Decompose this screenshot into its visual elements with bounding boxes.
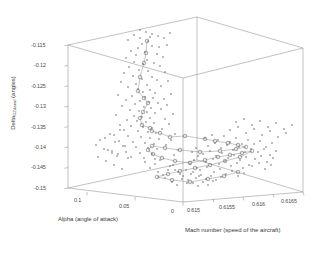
scatter-point bbox=[237, 126, 238, 127]
scatter-point bbox=[144, 142, 145, 143]
scatter-point bbox=[154, 163, 155, 164]
scatter-point bbox=[121, 105, 122, 106]
scatter-point bbox=[212, 180, 213, 181]
scatter-point bbox=[138, 69, 139, 70]
scatter-point bbox=[152, 97, 153, 98]
scatter-point bbox=[166, 104, 167, 105]
y-axis-title-subscript: CZdanal bbox=[12, 100, 17, 116]
scatter-point bbox=[123, 72, 124, 73]
scatter-point bbox=[124, 145, 125, 146]
scatter-point bbox=[192, 171, 193, 172]
scatter-point bbox=[156, 79, 157, 80]
scatter-point bbox=[153, 62, 154, 63]
scatter-point bbox=[109, 133, 110, 134]
y-tick-label: -0.115 bbox=[31, 42, 45, 48]
scatter-point bbox=[264, 168, 265, 169]
scatter-point bbox=[136, 120, 137, 121]
scatter-point bbox=[141, 43, 142, 44]
scatter-point bbox=[143, 106, 144, 107]
scatter-point bbox=[235, 137, 236, 138]
scatter-point bbox=[114, 141, 115, 142]
scatter-point bbox=[117, 94, 118, 95]
scatter-point bbox=[245, 156, 246, 157]
x-tick-label: 0 bbox=[171, 208, 174, 214]
scatter-point bbox=[95, 144, 96, 145]
scatter-point bbox=[157, 102, 158, 103]
scatter-point bbox=[121, 168, 122, 169]
scatter-point bbox=[291, 124, 292, 125]
scatter-point bbox=[164, 118, 165, 119]
scatter-point bbox=[103, 148, 104, 149]
scatter-point bbox=[138, 110, 139, 111]
scatter-point bbox=[125, 151, 126, 152]
y-tick-label: -0.125 bbox=[31, 83, 46, 89]
plot-canvas bbox=[0, 0, 321, 255]
scatter-point bbox=[135, 54, 136, 55]
scatter-point bbox=[198, 175, 199, 176]
scatter-point bbox=[243, 172, 244, 173]
scatter-point bbox=[271, 142, 272, 143]
scatter-point bbox=[192, 182, 193, 183]
scatter-point bbox=[223, 135, 224, 136]
scatter-point bbox=[122, 145, 123, 146]
scatter-point bbox=[155, 132, 156, 133]
scatter-point bbox=[236, 162, 237, 163]
scatter-point bbox=[251, 165, 252, 166]
scatter-point bbox=[153, 143, 154, 144]
scatter-point bbox=[187, 179, 188, 180]
scatter-point bbox=[129, 109, 130, 110]
scatter-point bbox=[146, 84, 147, 85]
scatter-point bbox=[119, 124, 120, 125]
scatter-point bbox=[275, 150, 276, 151]
scatter-point bbox=[163, 98, 164, 99]
scatter-point bbox=[176, 184, 177, 185]
scatter-point bbox=[133, 115, 134, 116]
scatter-point bbox=[119, 129, 120, 130]
scatter-point bbox=[107, 149, 108, 150]
scatter-point bbox=[229, 129, 230, 130]
scatter-point bbox=[133, 34, 134, 35]
z-tick-label: 0.6155 bbox=[219, 204, 235, 210]
scatter-point bbox=[146, 59, 147, 60]
scatter-point bbox=[193, 159, 194, 160]
scatter-point bbox=[127, 135, 128, 136]
scatter-point bbox=[235, 121, 236, 122]
scatter-point bbox=[170, 139, 171, 140]
scatter-point bbox=[158, 46, 159, 47]
figure-3d-scatter-plot: -0.115 -0.12 -0.125 -0.13 -0.135 -0.14 -… bbox=[0, 0, 321, 255]
scatter-point bbox=[179, 173, 180, 174]
scatter-point bbox=[120, 81, 121, 82]
scatter-point bbox=[125, 57, 126, 58]
scatter-point bbox=[211, 134, 212, 135]
scatter-point bbox=[169, 32, 170, 33]
scatter-point bbox=[123, 129, 124, 130]
y-tick-label: -0.12 bbox=[34, 62, 46, 68]
scatter-point bbox=[257, 151, 258, 152]
scatter-point bbox=[215, 179, 216, 180]
scatter-point bbox=[149, 137, 150, 138]
scatter-point bbox=[186, 182, 187, 183]
scatter-point bbox=[111, 150, 112, 151]
scatter-point bbox=[145, 31, 146, 32]
scatter-point bbox=[219, 168, 220, 169]
scatter-point bbox=[221, 152, 222, 153]
scatter-point bbox=[118, 140, 119, 141]
scatter-point bbox=[251, 124, 252, 125]
scatter-point bbox=[160, 85, 161, 86]
scatter-point bbox=[104, 137, 105, 138]
scatter-point bbox=[168, 123, 169, 124]
scatter-point bbox=[113, 164, 114, 165]
scatter-point bbox=[165, 144, 166, 145]
scatter-point bbox=[127, 39, 128, 40]
scatter-point bbox=[153, 122, 154, 123]
scatter-point bbox=[195, 147, 196, 148]
y-tick-label: -0.13 bbox=[34, 103, 46, 109]
scatter-point bbox=[231, 170, 232, 171]
scatter-point bbox=[169, 165, 170, 166]
scatter-point bbox=[147, 131, 148, 132]
axes-box-wireframe bbox=[68, 17, 303, 202]
scatter-point bbox=[199, 169, 200, 170]
scatter-point bbox=[150, 107, 151, 108]
scatter-point bbox=[167, 169, 168, 170]
scatter-point bbox=[227, 157, 228, 158]
